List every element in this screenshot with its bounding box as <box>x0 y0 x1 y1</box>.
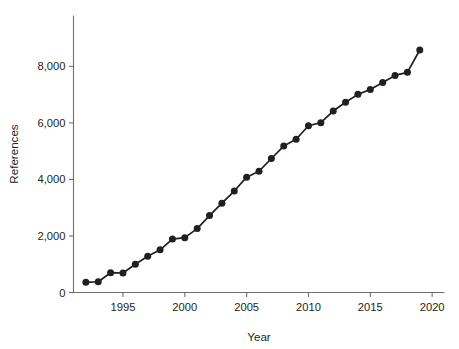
data-point: 2016: 7430 <box>379 79 386 86</box>
data-point: 1999: 1890 <box>169 236 176 243</box>
data-point: 1997: 1280 <box>144 253 151 260</box>
x-axis-tick-label: 2005 <box>234 301 259 313</box>
data-point: 2019: 8580 <box>416 46 423 53</box>
series-markers-group: 1992: 3601993: 3801994: 7001995: 6901996… <box>82 46 423 285</box>
data-point: 2000: 1940 <box>181 234 188 241</box>
data-point: 2015: 7180 <box>367 86 374 93</box>
data-point: 2013: 6730 <box>342 99 349 106</box>
data-point: 2001: 2260 <box>194 225 201 232</box>
y-axis-tick-label: 6,000 <box>38 117 66 129</box>
x-axis-tick-label: 2010 <box>296 301 321 313</box>
y-axis-title: References <box>7 124 20 183</box>
data-point: 2017: 7680 <box>392 72 399 79</box>
data-point: 2002: 2720 <box>206 212 213 219</box>
data-point: 2018: 7790 <box>404 69 411 76</box>
data-point: 1994: 700 <box>107 269 114 276</box>
data-point: 1995: 690 <box>119 270 126 277</box>
data-point: 2010: 5900 <box>305 122 312 129</box>
data-point: 2009: 5420 <box>293 136 300 143</box>
data-point: 1998: 1510 <box>157 246 164 253</box>
series-line-references <box>86 50 420 282</box>
y-axis-tick-label: 2,000 <box>38 230 66 242</box>
y-axis-tick-label: 0 <box>59 287 65 299</box>
x-axis-tick-label: 2015 <box>358 301 383 313</box>
data-point: 2012: 6420 <box>330 108 337 115</box>
data-point: 2003: 3160 <box>218 200 225 207</box>
data-point: 2006: 4290 <box>256 168 263 175</box>
data-point: 2014: 7010 <box>354 91 361 98</box>
x-axis-tick-label: 2020 <box>420 301 445 313</box>
data-point: 2011: 6010 <box>317 119 324 126</box>
x-axis-tick-label: 1995 <box>111 301 136 313</box>
data-point: 2005: 4080 <box>243 174 250 181</box>
chart-figure: 02,0004,0006,0008,0001995200020052010201… <box>0 0 459 349</box>
data-point: 2008: 5180 <box>280 143 287 150</box>
axis-spine <box>74 16 445 293</box>
x-axis-title: Year <box>247 330 271 343</box>
y-axis-tick-label: 4,000 <box>38 173 66 185</box>
data-point: 2004: 3590 <box>231 188 238 195</box>
data-point: 1992: 360 <box>82 279 89 286</box>
data-point: 2007: 4740 <box>268 155 275 162</box>
x-axis-tick-label: 2000 <box>172 301 197 313</box>
y-axis-tick-label: 8,000 <box>38 60 66 72</box>
data-point: 1993: 380 <box>95 278 102 285</box>
data-point: 1996: 1000 <box>132 261 139 268</box>
references-by-year-line-chart: 02,0004,0006,0008,0001995200020052010201… <box>0 0 459 349</box>
